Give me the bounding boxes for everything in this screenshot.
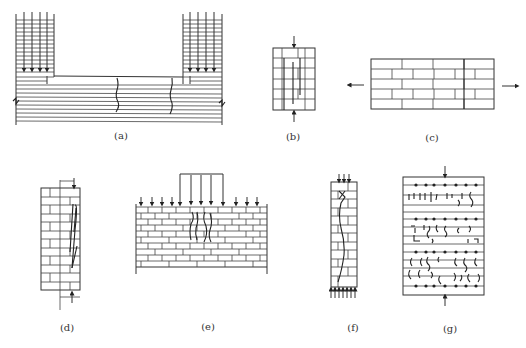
panel-f: (f) (331, 174, 359, 333)
panel-b: (b) (273, 36, 315, 142)
cracks-g (409, 192, 480, 284)
load-arrows-right (190, 12, 214, 70)
caption-f: (f) (347, 322, 359, 333)
uniform-load-arrows (141, 197, 257, 204)
panel-e: (e) (136, 174, 267, 332)
local-load-arrows (180, 175, 223, 204)
masonry-failure-diagram: (a) (b) (0, 0, 526, 348)
reaction-arrows-f (331, 289, 355, 298)
caption-a: (a) (114, 130, 128, 141)
caption-g: (g) (443, 323, 457, 334)
panel-c: (c) (349, 59, 517, 143)
caption-d: (d) (60, 322, 74, 333)
caption-b: (b) (286, 131, 300, 142)
caption-e: (e) (201, 321, 215, 332)
caption-c: (c) (425, 132, 439, 143)
load-arrows-left (24, 12, 47, 70)
panel-g: (g) (403, 166, 484, 334)
panel-d: (d) (41, 178, 80, 333)
panel-a: (a) (13, 12, 225, 141)
